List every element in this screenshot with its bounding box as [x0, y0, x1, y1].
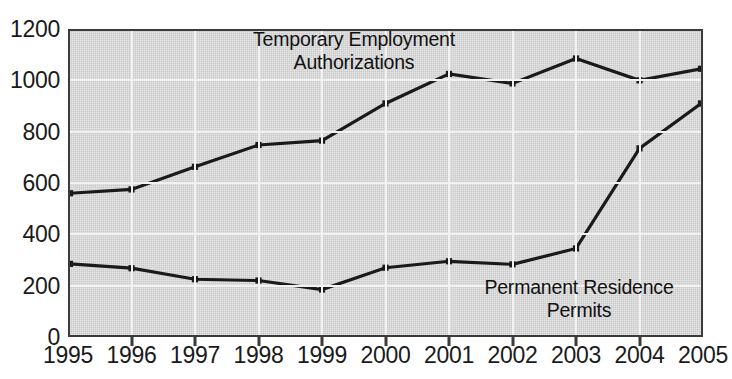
vertical-gridline — [385, 31, 387, 335]
data-point-marker — [698, 100, 701, 106]
annotation-upper-line1: Temporary Employment — [222, 28, 486, 51]
x-tick-label: 1995 — [33, 342, 103, 369]
y-tick-label: 200 — [4, 272, 60, 299]
x-axis-labels: 1995199619971998199920002001200220032004… — [0, 342, 719, 379]
y-tick-label: 1200 — [4, 16, 60, 43]
x-tick-label: 1999 — [287, 342, 357, 369]
data-point-marker — [70, 190, 73, 196]
x-tick-label: 2003 — [541, 342, 611, 369]
data-point-marker — [70, 261, 73, 267]
x-tick-label: 2005 — [668, 342, 732, 369]
vertical-gridline — [258, 31, 260, 335]
annotation-lower-line1: Permanent Residence — [455, 276, 703, 299]
vertical-gridline — [194, 31, 196, 335]
y-tick-label: 1000 — [4, 67, 60, 94]
annotation-permanent-residence-permits: Permanent Residence Permits — [455, 276, 703, 322]
y-tick-label: 600 — [4, 170, 60, 197]
annotation-lower-line2: Permits — [455, 299, 703, 322]
x-tick-label: 2004 — [605, 342, 675, 369]
y-tick-label: 800 — [4, 118, 60, 145]
x-tick-label: 1998 — [224, 342, 294, 369]
y-axis-labels: 020040060080010001200 — [0, 0, 60, 379]
x-tick-label: 1996 — [97, 342, 167, 369]
x-tick-label: 2002 — [478, 342, 548, 369]
x-tick-label: 2000 — [351, 342, 421, 369]
annotation-upper-line2: Authorizations — [222, 51, 486, 74]
annotation-temporary-employment-authorizations: Temporary Employment Authorizations — [222, 28, 486, 74]
y-tick-label: 400 — [4, 221, 60, 248]
vertical-gridline — [131, 31, 133, 335]
data-point-marker — [698, 66, 701, 72]
x-tick-label: 2001 — [414, 342, 484, 369]
vertical-gridline — [448, 31, 450, 335]
vertical-gridline — [321, 31, 323, 335]
x-tick-label: 1997 — [160, 342, 230, 369]
